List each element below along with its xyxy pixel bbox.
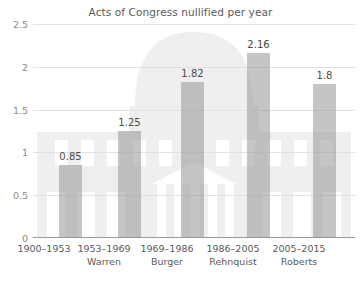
bar-chart: Acts of Congress nullified per year [0,0,361,284]
plot-area: 2.5 2 1.5 1 0.5 0 0.85 1.25 1.82 2.16 1.… [33,24,355,238]
chart-title: Acts of Congress nullified per year [0,6,361,18]
y-tick-label: 1.5 [0,104,28,115]
bar-value-label: 1.8 [317,70,333,81]
x-tick-label: 1969–1986 [140,243,193,254]
bar[interactable]: 1.8 [313,84,336,238]
bar-value-label: 2.16 [247,39,269,50]
y-tick-label: 1 [0,147,28,158]
x-tick-sublabel: Roberts [253,255,345,268]
x-tick-label: 1986–2005 [206,243,259,254]
bar[interactable]: 2.16 [247,53,270,238]
bar-value-label: 0.85 [59,151,81,162]
gridline [33,24,355,25]
y-tick-label: 2.5 [0,19,28,30]
bar-value-label: 1.25 [118,117,140,128]
bar-value-label: 1.82 [181,68,203,79]
y-tick-label: 0.5 [0,190,28,201]
bar[interactable]: 0.85 [59,165,82,238]
x-tick-label-group: 2005–2015 Roberts [253,242,345,268]
x-tick-label: 2005–2015 [272,243,325,254]
y-tick-label: 2 [0,61,28,72]
bar[interactable]: 1.82 [181,82,204,238]
bar[interactable]: 1.25 [118,131,141,238]
